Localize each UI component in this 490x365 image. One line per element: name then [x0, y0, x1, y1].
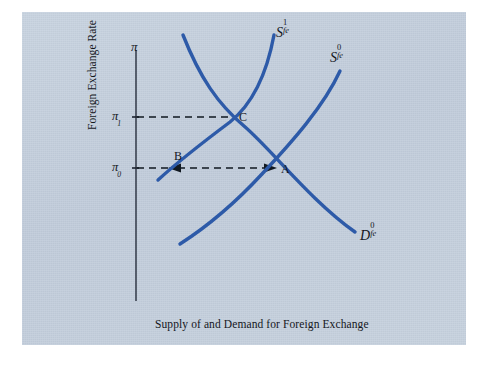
s1-base: S: [276, 25, 283, 40]
s0-affixes: 0fe: [337, 48, 345, 62]
point-label-b: B: [174, 150, 182, 162]
figure-stage: π π1 π0 S1fe S0fe D0fe A B C Foreign Exc…: [0, 0, 490, 365]
d0-subscript: fe: [370, 230, 376, 238]
axis-tick-label-pi0: π0: [112, 161, 122, 176]
s0-subscript: fe: [337, 52, 343, 60]
s0-base: S: [330, 50, 337, 65]
d0-base: D: [360, 228, 370, 243]
point-label-a: A: [281, 163, 290, 175]
s1-affixes: 1fe: [283, 23, 291, 37]
y-axis-symbol: π: [131, 40, 138, 53]
axis-tick-label-pi1: π1: [112, 110, 122, 125]
curve-label-supply-fe-0: S0fe: [330, 48, 345, 65]
plot-canvas: [0, 0, 490, 365]
y-axis-title: Foreign Exchange Rate: [86, 0, 98, 130]
supply-curve-s0-fe: [180, 71, 340, 244]
s1-subscript: fe: [283, 27, 289, 35]
pi0-subscript: 0: [117, 170, 121, 179]
pi1-subscript: 1: [117, 119, 121, 128]
curve-label-demand-fe-0: D0fe: [360, 226, 378, 243]
x-axis-caption: Supply of and Demand for Foreign Exchang…: [155, 318, 369, 330]
d0-affixes: 0fe: [370, 226, 378, 240]
point-label-c: C: [239, 111, 247, 123]
curve-label-supply-fe-1: S1fe: [276, 23, 291, 40]
